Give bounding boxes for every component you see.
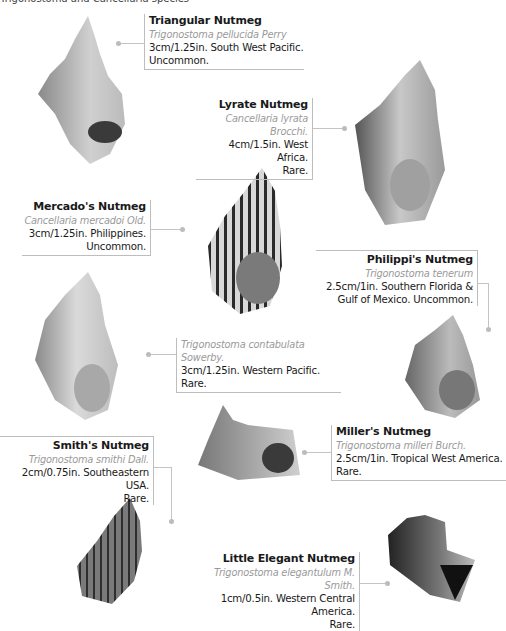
size-range: 3cm/1.25in. South West Pacific. [149, 41, 304, 54]
contabulata-shell-image [30, 270, 120, 420]
leader-dot [385, 581, 390, 586]
scientific-name: Trigonostoma pellucida Perry [149, 28, 304, 41]
philippis-nutmeg-shell-image [395, 310, 485, 420]
caption-contabulata: Trigonostoma contabulata Sowerby. 3cm/1.… [176, 338, 341, 393]
title: Mercado's Nutmeg [22, 200, 146, 214]
leader-line [171, 467, 172, 520]
cropped-header-text: Trigonostoma and Cancellaria species [0, 0, 189, 4]
leader-dot [180, 227, 185, 232]
rarity: Rare. [181, 377, 341, 390]
leader-dot [116, 41, 121, 46]
leader-line [148, 354, 176, 355]
caption-millers-nutmeg: Miller's Nutmeg Trigonostoma milleri Bur… [331, 425, 506, 481]
lyrate-nutmeg-shell-image [350, 60, 450, 230]
scientific-name: Trigonostoma milleri Burch. [336, 439, 506, 452]
scientific-name: Trigonostoma tenerum [316, 267, 473, 280]
scientific-name: Cancellaria mercadoi Old. [22, 214, 146, 227]
rarity: Gulf of Mexico. Uncommon. [316, 293, 473, 306]
leader-line [360, 583, 386, 584]
leader-line [118, 43, 144, 44]
size-range: 2cm/0.75in. Southeastern USA. [0, 466, 149, 492]
title: Triangular Nutmeg [149, 14, 304, 28]
mercados-nutmeg-shell-image [200, 166, 290, 316]
size-range: 1cm/0.5in. Western Central America. [188, 592, 355, 618]
leader-line [154, 467, 171, 468]
scientific-name: Cancellaria lyrata Brocchi. [196, 112, 308, 138]
size-range: 2.5cm/1in. Tropical West America. [336, 452, 506, 465]
little-elegant-nutmeg-shell-image [385, 510, 480, 605]
leader-line [478, 283, 488, 284]
leader-line [488, 283, 489, 328]
rarity: Uncommon. [149, 54, 304, 67]
leader-dot [486, 327, 491, 332]
size-range: 4cm/1.5in. West Africa. [196, 138, 308, 164]
caption-smiths-nutmeg: Smith's Nutmeg Trigonostoma smithi Dall.… [0, 436, 154, 505]
scientific-name: Trigonostoma smithi Dall. [0, 453, 149, 466]
scientific-name: Trigonostoma contabulata Sowerby. [181, 338, 341, 364]
title: Philippi's Nutmeg [316, 253, 473, 267]
caption-little-elegant-nutmeg: Little Elegant Nutmeg Trigonostoma elega… [188, 552, 360, 631]
size-range: 3cm/1.25in. Western Pacific. [181, 364, 341, 377]
rarity: Rare. [196, 164, 308, 177]
smiths-nutmeg-shell-image [72, 496, 152, 606]
size-range: 3cm/1.25in. Philippines. [22, 227, 146, 240]
title: Smith's Nutmeg [0, 439, 149, 453]
leader-line [151, 229, 181, 230]
millers-nutmeg-shell-image [188, 400, 308, 480]
rarity: Uncommon. [22, 240, 146, 253]
caption-mercados-nutmeg: Mercado's Nutmeg Cancellaria mercadoi Ol… [22, 200, 151, 256]
title: Little Elegant Nutmeg [188, 552, 355, 566]
rarity: Rare. [0, 492, 149, 505]
caption-philippis-nutmeg: Philippi's Nutmeg Trigonostoma tenerum 2… [316, 250, 478, 306]
rarity: Rare. [336, 465, 506, 478]
leader-line [304, 452, 331, 453]
rarity: Rare. [188, 618, 355, 631]
caption-lyrate-nutmeg: Lyrate Nutmeg Cancellaria lyrata Brocchi… [196, 98, 313, 180]
scientific-name: Trigonostoma elegantulum M. Smith. [188, 566, 355, 592]
leader-line [313, 128, 343, 129]
triangular-nutmeg-shell-image [30, 14, 130, 164]
title: Miller's Nutmeg [336, 425, 506, 439]
size-range: 2.5cm/1in. Southern Florida & [316, 280, 473, 293]
leader-dot [342, 126, 347, 131]
leader-dot [302, 450, 307, 455]
title: Lyrate Nutmeg [196, 98, 308, 112]
caption-triangular-nutmeg: Triangular Nutmeg Trigonostoma pellucida… [144, 14, 304, 70]
leader-dot [146, 352, 151, 357]
leader-dot [169, 519, 174, 524]
